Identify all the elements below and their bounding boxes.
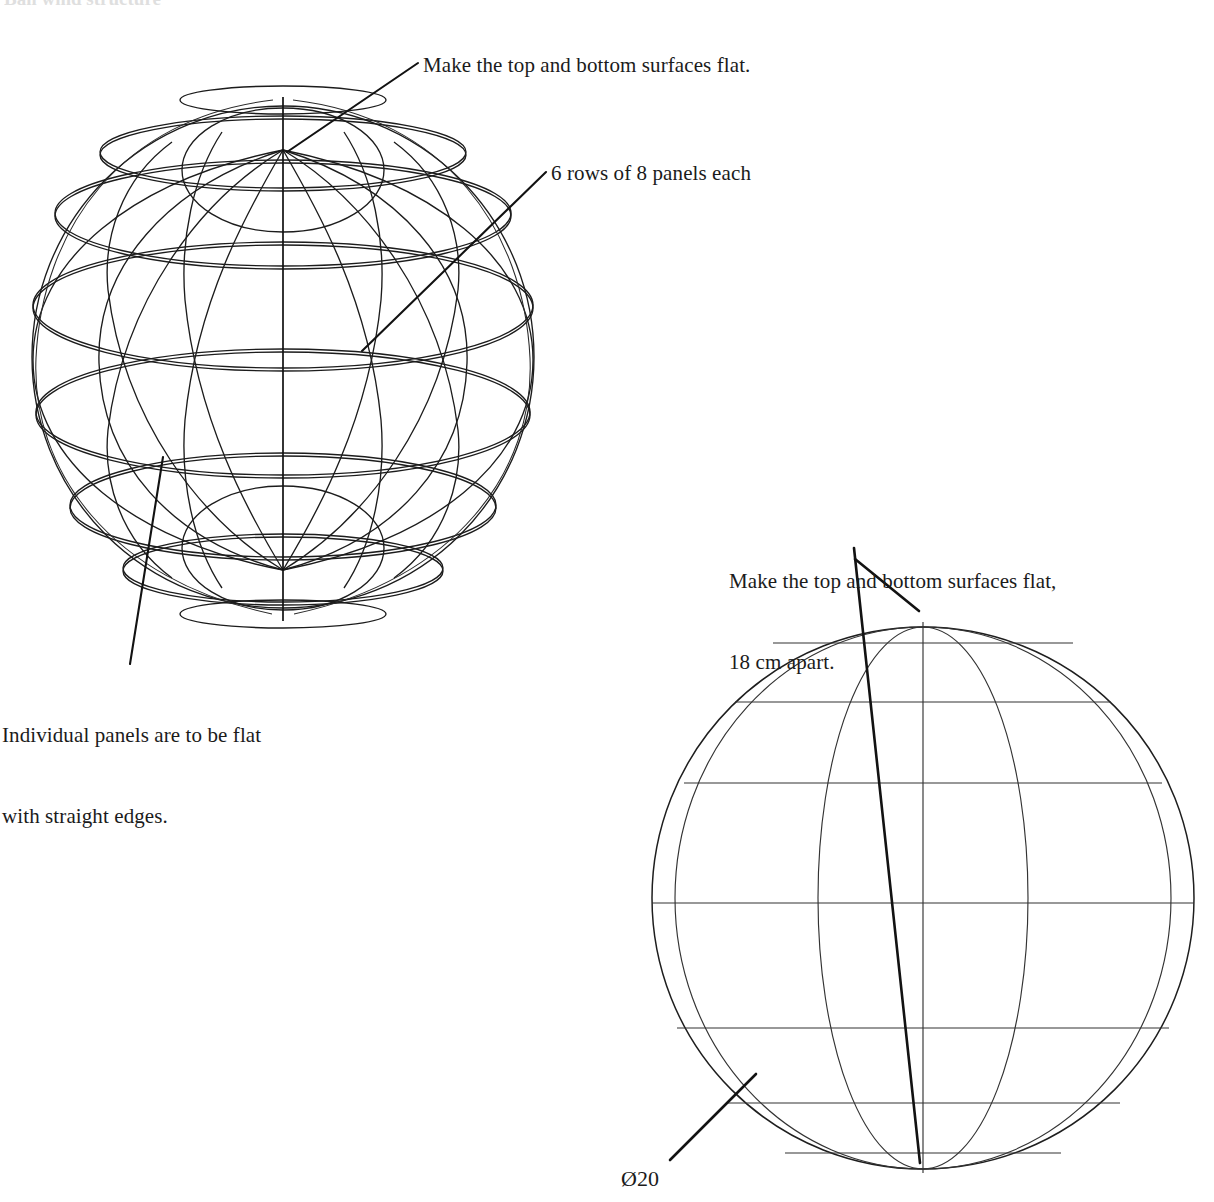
drawing-sheet: Ball wind structure: [0, 0, 1214, 1202]
annotation-top-bottom-flat: Make the top and bottom surfaces flat.: [423, 52, 750, 79]
annotation-flat-18cm-line2: 18 cm apart.: [729, 649, 1056, 676]
leader-rows-panels: [362, 172, 546, 351]
annotation-flat-18cm: Make the top and bottom surfaces flat, 1…: [729, 514, 1056, 730]
annotation-individual-panels-line1: Individual panels are to be flat: [2, 722, 261, 749]
annotation-rows-of-panels: 6 rows of 8 panels each: [551, 160, 751, 187]
leader-individual-panels: [130, 457, 163, 664]
leader-diameter: [670, 1074, 756, 1160]
annotation-flat-18cm-line1: Make the top and bottom surfaces flat,: [729, 568, 1056, 595]
leader-top-flat: [287, 63, 418, 152]
dimension-label-diameter: Ø20: [621, 1165, 659, 1192]
annotation-individual-panels-line2: with straight edges.: [2, 803, 261, 830]
annotation-individual-panels: Individual panels are to be flat with st…: [2, 668, 261, 884]
